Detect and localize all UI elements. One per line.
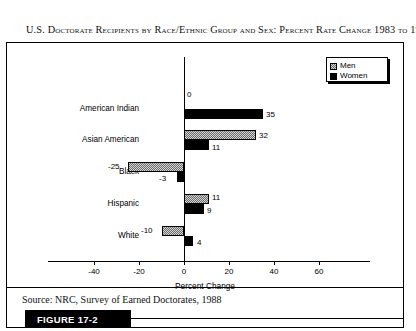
chart-legend: Men Women (326, 57, 388, 82)
category-label-hispanic: Hispanic (21, 199, 139, 208)
bar-men-hispanic (184, 194, 209, 204)
legend-swatch-men-icon (330, 63, 337, 70)
category-label-asian-american: Asian American (21, 135, 139, 144)
category-label-american-indian: American Indian (21, 104, 139, 113)
x-tick-label: 60 (304, 267, 334, 276)
x-tick-mark (319, 261, 320, 265)
bar-men-white (162, 226, 184, 236)
value-label-men-white: -10 (141, 226, 153, 235)
value-label-women-hispanic: 9 (207, 206, 211, 215)
x-tick-mark (94, 261, 95, 265)
x-tick-label: 0 (169, 267, 199, 276)
category-label-black: Black (21, 167, 139, 176)
source-divider (6, 287, 404, 288)
chart-title: U.S. Doctorate Recipients by Race/Ethnic… (26, 24, 396, 35)
bar-men-black (128, 162, 184, 172)
legend-label-men: Men (340, 61, 356, 70)
value-label-men-hispanic: 11 (212, 193, 220, 202)
x-tick-mark (229, 261, 230, 265)
value-label-women-asian-american: 11 (212, 143, 220, 152)
caption-rule (131, 318, 404, 319)
bar-women-black (177, 172, 184, 182)
bar-women-asian-american (184, 140, 209, 150)
x-tick-label: -40 (79, 267, 109, 276)
x-tick-mark (274, 261, 275, 265)
title-band: U.S. Doctorate Recipients by Race/Ethnic… (6, 20, 404, 43)
value-label-men-asian-american: 32 (259, 131, 268, 140)
x-tick-label: 40 (259, 267, 289, 276)
x-tick-label: -20 (124, 267, 154, 276)
value-label-women-american-indian: 35 (266, 110, 275, 119)
bar-women-white (184, 236, 193, 246)
figure-caption-box: FIGURE 17-2 (25, 310, 131, 328)
bar-women-hispanic (184, 204, 204, 214)
category-label-white: White (21, 231, 139, 240)
x-tick-mark (139, 261, 140, 265)
source-note: Source: NRC, Survey of Earned Doctorates… (22, 294, 221, 305)
value-label-women-black: -3 (159, 174, 166, 183)
bar-men-american-indian (184, 99, 185, 109)
figure-caption-label: FIGURE 17-2 (37, 314, 98, 325)
legend-swatch-women-icon (330, 73, 337, 80)
x-tick-mark (184, 261, 185, 265)
legend-label-women: Women (340, 71, 367, 80)
value-label-men-american-indian: 0 (187, 90, 191, 99)
x-axis-line (48, 261, 370, 262)
figure-container: U.S. Doctorate Recipients by Race/Ethnic… (0, 0, 416, 331)
zero-axis-line (184, 57, 185, 261)
x-axis-title: Percent Change (7, 281, 403, 291)
bar-men-asian-american (184, 130, 256, 140)
bar-women-american-indian (184, 109, 263, 119)
value-label-men-black: -25 (108, 162, 120, 171)
x-tick-label: 20 (214, 267, 244, 276)
value-label-women-white: 4 (197, 238, 201, 247)
